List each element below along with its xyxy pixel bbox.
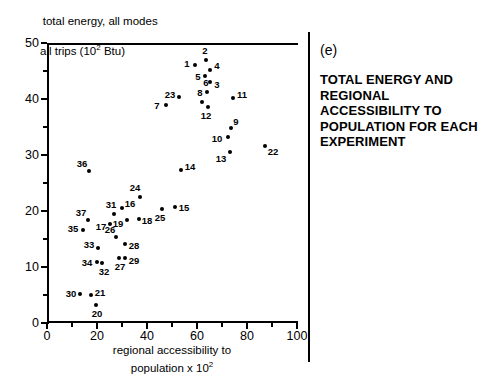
x-axis-caption-line2: population x 102	[47, 358, 297, 375]
y-axis-tick	[41, 42, 47, 44]
data-point[interactable]	[81, 228, 85, 232]
y-axis-tick-label: 50	[25, 37, 39, 49]
data-point[interactable]	[177, 95, 181, 99]
data-point[interactable]	[123, 242, 127, 246]
data-point-label: 27	[115, 262, 126, 272]
data-point-label: 33	[84, 240, 95, 250]
data-point-label: 14	[185, 162, 196, 172]
data-point-label: 28	[129, 241, 140, 251]
x-axis-tick-label: 20	[90, 330, 104, 342]
y-axis-tick-label: 40	[25, 93, 39, 105]
data-point-label: 32	[99, 267, 110, 277]
data-point[interactable]	[206, 105, 210, 109]
data-point-label: 20	[92, 309, 103, 319]
data-point-label: 12	[201, 111, 212, 121]
data-point[interactable]	[78, 292, 82, 296]
data-point[interactable]	[164, 103, 168, 107]
data-point[interactable]	[226, 135, 230, 139]
data-point[interactable]	[86, 218, 90, 222]
data-point-label: 23	[165, 90, 176, 100]
data-point[interactable]	[120, 206, 124, 210]
y-axis-tick-label: 10	[25, 261, 39, 273]
data-point[interactable]	[95, 260, 99, 264]
y-axis-minor-tick	[43, 182, 47, 184]
y-axis-tick	[41, 266, 47, 268]
y-axis-tick-label: 20	[25, 205, 39, 217]
data-point-label: 31	[106, 200, 117, 210]
x-axis-tick-label: 80	[240, 330, 254, 342]
x-axis-tick-label: 100	[287, 330, 308, 342]
y-axis-minor-tick	[43, 238, 47, 240]
data-point[interactable]	[200, 100, 204, 104]
y-axis-minor-tick	[43, 70, 47, 72]
x-axis-minor-tick	[121, 323, 123, 327]
plot-frame-right	[296, 43, 298, 45]
data-point-label: 4	[214, 61, 219, 71]
data-point[interactable]	[94, 303, 98, 307]
data-point-label: 6	[203, 78, 208, 88]
data-point[interactable]	[208, 68, 212, 72]
scatter-plot-area: 0102030405002040608010012345678910111213…	[47, 43, 297, 323]
data-point[interactable]	[137, 217, 141, 221]
data-point-label: 21	[95, 288, 106, 298]
data-point[interactable]	[112, 212, 116, 216]
y-axis-minor-tick	[43, 294, 47, 296]
data-point-label: 26	[105, 225, 116, 235]
data-point-label: 35	[68, 224, 79, 234]
data-point-label: 1	[184, 59, 189, 69]
data-point-label: 7	[154, 101, 159, 111]
figure-title: TOTAL ENERGY AND REGIONAL ACCESSIBILITY …	[320, 72, 480, 150]
data-point-label: 18	[142, 216, 153, 226]
data-point[interactable]	[160, 207, 164, 211]
data-point-label: 34	[82, 258, 93, 268]
data-point[interactable]	[123, 256, 127, 260]
data-point-label: 13	[216, 154, 227, 164]
x-axis-tick-label: 60	[190, 330, 204, 342]
data-point-label: 9	[233, 117, 238, 127]
x-axis-caption: regional accessibility to population x 1…	[47, 344, 297, 375]
x-axis-tick-label: 40	[140, 330, 154, 342]
x-axis-minor-tick	[271, 323, 273, 327]
data-point[interactable]	[138, 195, 142, 199]
data-point[interactable]	[173, 205, 177, 209]
data-point-label: 3	[214, 80, 219, 90]
y-axis-line	[47, 43, 49, 324]
figure-side-panel: (e) TOTAL ENERGY AND REGIONAL ACCESSIBIL…	[308, 32, 483, 362]
data-point-label: 30	[66, 289, 77, 299]
data-point[interactable]	[231, 96, 235, 100]
y-axis-tick	[41, 154, 47, 156]
x-axis-tick-label: 0	[44, 330, 51, 342]
data-point-label: 25	[155, 213, 166, 223]
data-point-label: 10	[212, 134, 223, 144]
y-axis-tick-label: 30	[25, 149, 39, 161]
data-point-label: 5	[195, 72, 200, 82]
data-point[interactable]	[87, 169, 91, 173]
data-point[interactable]	[114, 235, 118, 239]
x-axis-minor-tick	[71, 323, 73, 327]
data-point[interactable]	[204, 58, 208, 62]
data-point[interactable]	[263, 144, 267, 148]
data-point-label: 15	[179, 203, 190, 213]
data-point[interactable]	[228, 150, 232, 154]
data-point[interactable]	[125, 218, 129, 222]
data-point-label: 37	[76, 208, 87, 218]
data-point-label: 11	[237, 90, 247, 100]
side-panel-divider	[308, 32, 310, 362]
y-axis-tick	[41, 210, 47, 212]
data-point[interactable]	[100, 261, 104, 265]
data-point-label: 24	[130, 183, 141, 193]
data-point-label: 2	[202, 46, 207, 56]
x-axis-minor-tick	[171, 323, 173, 327]
y-axis-caption-line1: total energy, all modes	[43, 15, 158, 27]
data-point[interactable]	[89, 293, 93, 297]
data-point[interactable]	[96, 246, 100, 250]
y-axis-minor-tick	[43, 126, 47, 128]
data-point-label: 8	[197, 88, 202, 98]
data-point[interactable]	[205, 90, 209, 94]
y-axis-tick	[41, 98, 47, 100]
data-point[interactable]	[193, 63, 197, 67]
data-point[interactable]	[179, 168, 183, 172]
y-axis-tick-label: 0	[32, 317, 39, 329]
data-point[interactable]	[117, 256, 121, 260]
data-point-label: 16	[125, 199, 136, 209]
